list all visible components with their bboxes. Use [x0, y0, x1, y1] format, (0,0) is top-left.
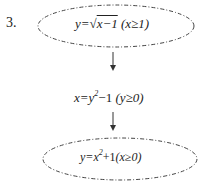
formula-condition: (x≥0)	[116, 150, 142, 164]
sqrt-icon: √	[90, 16, 97, 31]
radicand: x−1	[97, 16, 118, 31]
formula-step-3: y=x2+1(x≥0)	[80, 150, 141, 165]
down-arrow-icon	[110, 112, 116, 131]
formula-lhs: x=y	[74, 90, 94, 105]
formula-lhs: y=x	[80, 150, 99, 164]
formula-lhs: y=	[75, 16, 90, 31]
down-arrow-icon	[110, 52, 116, 71]
formula-rest: +1	[103, 150, 116, 164]
formula-rest: −1	[98, 90, 112, 105]
formula-step-2: x=y2−1 (y≥0)	[74, 90, 143, 106]
formula-condition: (x≥1)	[121, 16, 149, 31]
formula-condition: (y≥0)	[115, 90, 143, 105]
formula-step-1: y=√x−1 (x≥1)	[75, 16, 149, 32]
